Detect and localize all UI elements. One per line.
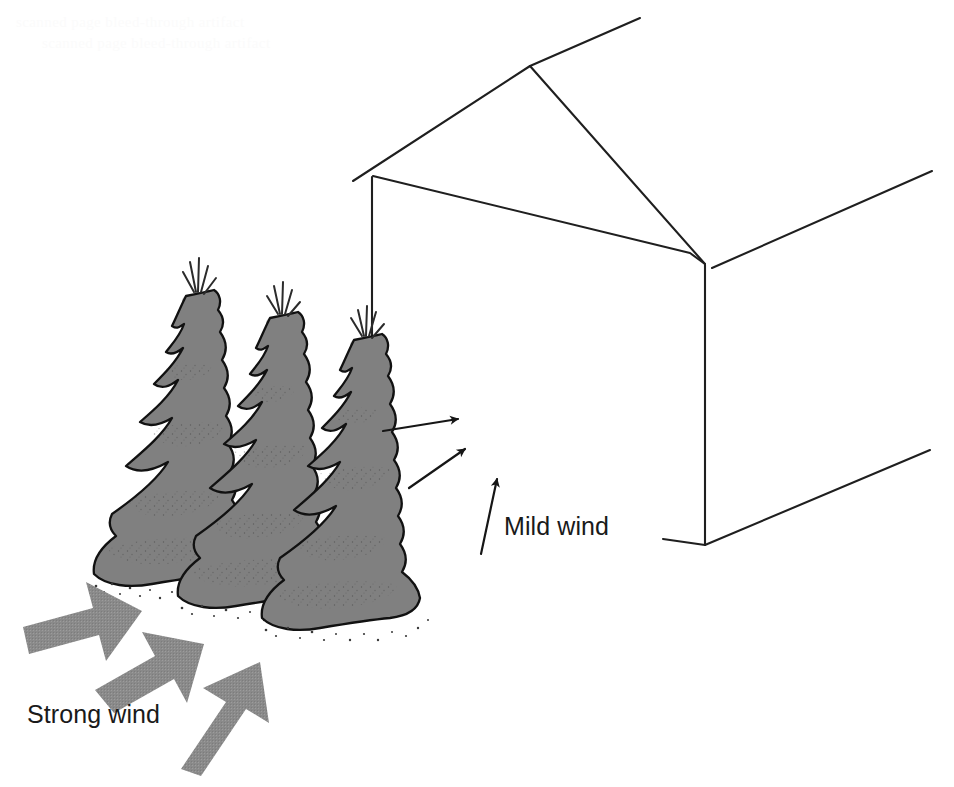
floor-right-edge	[705, 450, 930, 545]
tree-2-leader	[267, 282, 300, 316]
strong-wind-arrow-1	[23, 582, 142, 661]
roof-right-eave	[712, 171, 932, 268]
roof-ridge	[530, 66, 705, 264]
strong-wind-label: Strong wind	[27, 700, 160, 729]
strong-wind-arrow-3	[181, 662, 269, 776]
mild-wind-arrow-3	[481, 479, 497, 554]
conifer-windbreak	[94, 258, 429, 641]
floor-left-stub	[663, 539, 705, 545]
strong-wind-arrows	[23, 582, 269, 776]
tree-1-leader	[183, 258, 216, 294]
roof-front-eave	[373, 176, 705, 264]
roof-back-left-slope	[353, 66, 530, 181]
wind-diagram-illustration	[0, 0, 954, 787]
mild-wind-arrow-2	[409, 449, 465, 488]
tree-3-leader	[351, 306, 384, 338]
mild-wind-label: Mild wind	[504, 512, 609, 541]
roof-back-right-slope	[530, 18, 640, 66]
diagram-canvas: scanned page bleed-through artifact scan…	[0, 0, 954, 787]
